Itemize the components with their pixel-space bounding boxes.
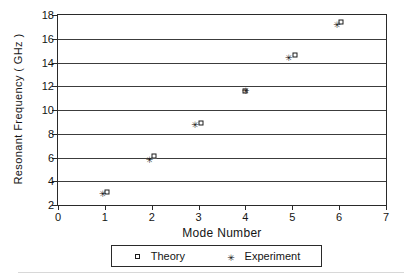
x-axis-tick-label: 2 xyxy=(149,211,155,223)
x-axis-tick-label: 6 xyxy=(336,211,342,223)
x-axis-tick-label: 5 xyxy=(289,211,295,223)
asterisk-icon: ✳ xyxy=(227,247,236,265)
x-axis-tick xyxy=(58,205,59,210)
x-axis-tick-label: 7 xyxy=(383,211,389,223)
scan-artifact-line xyxy=(18,272,404,273)
data-point-theory xyxy=(292,53,297,58)
y-axis-tick-label: 18 xyxy=(42,9,54,21)
x-axis-tick xyxy=(339,205,340,210)
x-axis-title: Mode Number xyxy=(57,226,387,240)
data-point-experiment: ✳ xyxy=(146,156,153,163)
x-axis-tick xyxy=(245,205,246,210)
x-axis-tick xyxy=(386,205,387,210)
data-point-theory xyxy=(339,20,344,25)
data-point-experiment: ✳ xyxy=(242,88,249,95)
data-point-experiment: ✳ xyxy=(99,191,106,198)
legend-item-theory: Theory xyxy=(133,247,185,265)
legend-label-experiment: Experiment xyxy=(245,250,301,262)
y-axis-tick-label: 4 xyxy=(48,175,54,187)
y-axis-tick-label: 2 xyxy=(48,199,54,211)
legend-box: Theory ✳ Experiment xyxy=(111,245,322,267)
data-point-experiment: ✳ xyxy=(333,21,340,28)
figure-container: Resonant Frequency ( GHz ) ✳✳✳✳✳✳ 246810… xyxy=(0,0,417,279)
y-axis-tick-label: 8 xyxy=(48,128,54,140)
y-axis-tick-label: 12 xyxy=(42,80,54,92)
data-point-theory xyxy=(105,189,110,194)
y-axis-tick-label: 6 xyxy=(48,152,54,164)
y-axis-tick-label: 10 xyxy=(42,104,54,116)
data-point-theory xyxy=(243,89,248,94)
x-axis-tick-label: 1 xyxy=(102,211,108,223)
x-axis-tick xyxy=(105,205,106,210)
open-square-icon xyxy=(133,247,142,265)
x-axis-tick xyxy=(152,205,153,210)
data-point-experiment: ✳ xyxy=(285,54,292,61)
legend-label-theory: Theory xyxy=(151,250,185,262)
y-axis-tick-label: 16 xyxy=(42,33,54,45)
x-axis-tick-label: 3 xyxy=(196,211,202,223)
data-point-experiment: ✳ xyxy=(191,122,198,129)
data-points-layer: ✳✳✳✳✳✳ xyxy=(58,15,386,205)
legend-item-experiment: ✳ Experiment xyxy=(227,247,301,265)
x-axis-tick-label: 4 xyxy=(242,211,248,223)
x-axis-tick-label: 0 xyxy=(55,211,61,223)
y-axis-tick-label: 14 xyxy=(42,57,54,69)
data-point-theory xyxy=(198,121,203,126)
data-point-theory xyxy=(152,154,157,159)
x-axis-tick xyxy=(292,205,293,210)
y-axis-title: Resonant Frequency ( GHz ) xyxy=(12,9,24,209)
x-axis-tick xyxy=(199,205,200,210)
plot-area: ✳✳✳✳✳✳ 2468101214161801234567 xyxy=(57,14,387,206)
